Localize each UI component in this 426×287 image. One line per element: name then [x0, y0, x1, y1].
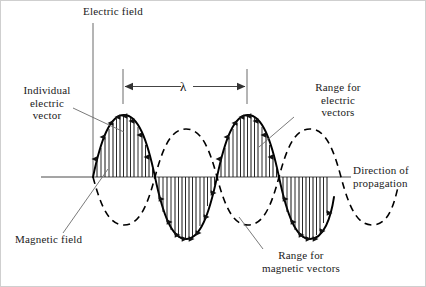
label-range-electric-line-3: vectors	[297, 106, 379, 119]
leader-range-electric-vectors	[259, 117, 294, 147]
label-range-magnetic-line-2: magnetic vectors	[233, 262, 369, 275]
label-magnetic-field: Magnetic field	[15, 233, 82, 246]
label-range-magnetic-line-1: Range for	[233, 249, 369, 262]
label-direction-line-1: Direction of	[353, 164, 425, 177]
label-direction-line-2: propagation	[353, 177, 425, 190]
label-range-electric-line-2: electric	[297, 94, 379, 107]
electric-vectors-crest-2	[221, 116, 273, 177]
electric-vectors-crest-1	[97, 116, 149, 177]
label-individual-line-1: Individual	[9, 84, 85, 97]
electromagnetic-wave-figure: Electric field Individual electric vecto…	[0, 0, 426, 287]
electric-vectors-trough-2-fill	[287, 177, 324, 239]
label-individual-line-2: electric	[9, 97, 85, 110]
label-range-magnetic-vectors: Range for magnetic vectors	[233, 249, 369, 274]
electric-vectors-trough-2	[283, 177, 327, 239]
label-direction-of-propagation: Direction of propagation	[353, 164, 425, 189]
label-range-electric-vectors: Range for electric vectors	[297, 81, 379, 119]
electric-vectors-trough-1	[159, 177, 211, 239]
leader-range-magnetic-vectors	[239, 217, 263, 249]
label-electric-field: Electric field	[58, 5, 168, 18]
label-individual-electric-vector: Individual electric vector	[9, 84, 85, 122]
label-wavelength-lambda: λ	[180, 79, 186, 95]
label-range-electric-line-1: Range for	[297, 81, 379, 94]
label-individual-line-3: vector	[9, 109, 85, 122]
